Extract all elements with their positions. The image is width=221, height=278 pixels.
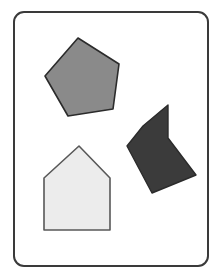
figure-root xyxy=(0,0,221,278)
rounded-rectangle-frame xyxy=(14,12,208,266)
shapes-canvas xyxy=(0,0,221,278)
